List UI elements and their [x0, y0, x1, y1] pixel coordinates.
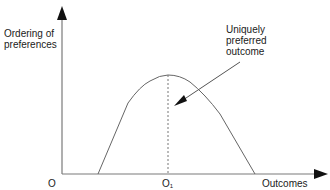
- peak-outcome-label: O1: [162, 178, 173, 190]
- y-axis-arrowhead-icon: [57, 6, 67, 20]
- annotation-line3: outcome: [226, 46, 267, 57]
- origin-label: O: [48, 178, 56, 189]
- y-axis-label: Ordering of preferences: [4, 28, 57, 50]
- annotation-line1: Uniquely: [226, 24, 267, 35]
- y-axis-label-line2: preferences: [4, 39, 57, 50]
- preference-curve: [98, 75, 255, 174]
- annotation-label: Uniquely preferred outcome: [226, 24, 267, 57]
- annotation-line2: preferred: [226, 35, 267, 46]
- peak-label-subscript: 1: [170, 183, 173, 189]
- y-axis-label-line1: Ordering of: [4, 28, 57, 39]
- annotation-arrowhead-icon: [174, 95, 187, 106]
- x-axis-label: Outcomes: [262, 178, 308, 189]
- x-axis-arrowhead-icon: [314, 169, 328, 179]
- annotation-arrow: [180, 62, 240, 102]
- peak-label-main: O: [162, 178, 170, 189]
